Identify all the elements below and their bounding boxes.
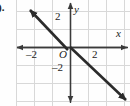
y-axis-label: y	[74, 4, 79, 15]
y-tick-positive-2: 2	[55, 11, 61, 22]
graph-figure: ). y x O 2 –2 –2 2	[0, 0, 130, 106]
x-tick-positive-2: 2	[92, 49, 98, 60]
x-tick-negative-2: –2	[26, 49, 37, 60]
plotted-line	[30, 10, 126, 100]
origin-label: O	[59, 49, 67, 60]
choice-label: ).	[0, 2, 4, 13]
y-tick-negative-2: –2	[52, 62, 63, 73]
x-axis-label: x	[116, 28, 121, 39]
